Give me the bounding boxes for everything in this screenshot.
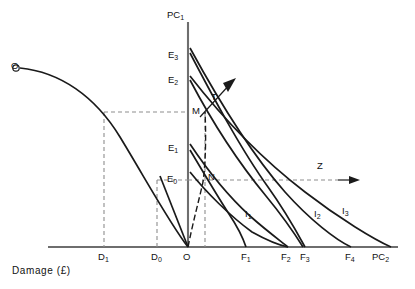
label-pc2: PC2 xyxy=(372,252,389,262)
z-arrow-head xyxy=(349,176,360,184)
label-origin-left: O xyxy=(11,61,18,71)
label-m: M xyxy=(192,106,200,116)
economics-diagram: PC1 PC2 E3 E2 E1 E0 M N T Z O O D1 D0 F1… xyxy=(0,0,415,289)
label-i2: I2 xyxy=(314,209,321,219)
label-f4: F4 xyxy=(345,252,355,262)
label-f1: F1 xyxy=(241,252,251,262)
label-f3: F3 xyxy=(300,252,310,262)
label-e2: E2 xyxy=(168,75,178,85)
label-i3: I3 xyxy=(342,206,349,216)
curve-E2-to-F3 xyxy=(190,80,303,247)
iso-curves-group xyxy=(190,48,391,247)
curve-I3 xyxy=(190,48,351,247)
label-pc1: PC1 xyxy=(167,10,184,20)
x-axis-caption: Damage (£) xyxy=(12,265,71,276)
label-i1: I1 xyxy=(245,209,252,219)
z-arrow-group xyxy=(338,176,360,184)
label-e3: E3 xyxy=(168,50,178,60)
label-e0: E0 xyxy=(167,174,177,184)
diagram-canvas xyxy=(0,0,415,289)
label-z: Z xyxy=(317,161,323,171)
label-n: N xyxy=(208,172,215,182)
curve-E1-to-F1 xyxy=(190,150,246,247)
label-t: T xyxy=(211,92,217,102)
label-d1: D1 xyxy=(98,252,109,262)
label-e1: E1 xyxy=(168,143,178,153)
label-d0: D0 xyxy=(151,252,162,262)
label-origin-center: O xyxy=(183,252,190,262)
label-f2: F2 xyxy=(281,252,291,262)
